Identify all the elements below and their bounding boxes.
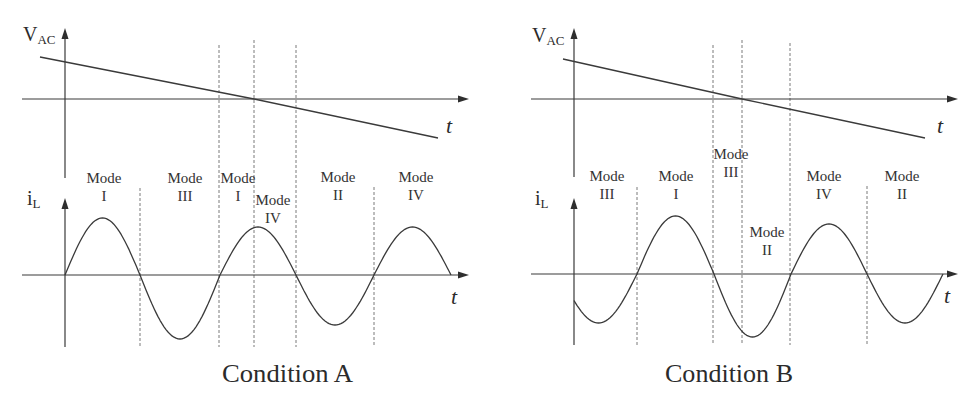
waveform-figure: ModeIModeIIIModeIModeIVModeIIModeIV VAC … xyxy=(0,0,979,403)
arrow-right-icon xyxy=(947,271,958,278)
mode-label-word: Mode xyxy=(221,170,256,186)
mode-label-word: Mode xyxy=(714,146,749,162)
vac-label-main: V xyxy=(532,24,547,46)
vac-axis-label: VAC xyxy=(23,23,56,47)
mode-label-numeral: I xyxy=(674,186,679,202)
condition-a-panel: ModeIModeIIIModeIModeIVModeIIModeIV VAC … xyxy=(22,23,469,387)
arrow-up-icon xyxy=(571,198,578,209)
mode-label-word: Mode xyxy=(256,192,291,208)
vac-axis-label: VAC xyxy=(532,24,565,48)
mode-label-word: Mode xyxy=(807,168,842,184)
mode-label-word: Mode xyxy=(87,170,122,186)
il-label-subscript: L xyxy=(33,196,41,211)
caption-condition-b: Condition B xyxy=(665,360,793,387)
arrow-up-icon xyxy=(62,198,69,209)
condition-a-graphics: ModeIModeIIIModeIModeIVModeIIModeIV xyxy=(22,28,469,347)
arrow-up-icon xyxy=(571,28,578,39)
vac-time-label: t xyxy=(937,113,944,138)
condition-b-panel: ModeIIIModeIModeIIIModeIIModeIVModeII VA… xyxy=(531,24,958,387)
mode-label-word: Mode xyxy=(659,168,694,184)
mode-label-numeral: I xyxy=(236,188,241,204)
mode-label-numeral: IV xyxy=(816,186,832,202)
mode-label-numeral: IV xyxy=(265,210,281,226)
mode-label-word: Mode xyxy=(399,169,434,185)
il-axis-label: iL xyxy=(27,187,41,211)
mode-label-numeral: III xyxy=(600,186,615,202)
mode-label-numeral: II xyxy=(333,187,343,203)
mode-label-numeral: III xyxy=(724,164,739,180)
mode-label-numeral: II xyxy=(897,186,907,202)
vac-label-main: V xyxy=(23,23,38,45)
arrow-right-icon xyxy=(947,96,958,103)
il-time-label: t xyxy=(944,283,951,308)
vac-time-label: t xyxy=(446,113,453,138)
mode-label-word: Mode xyxy=(168,170,203,186)
vac-label-subscript: AC xyxy=(546,33,564,48)
mode-label-word: Mode xyxy=(750,224,785,240)
vac-waveform xyxy=(40,57,438,138)
mode-label-word: Mode xyxy=(885,168,920,184)
mode-label-numeral: III xyxy=(178,188,193,204)
mode-label-numeral: I xyxy=(102,188,107,204)
mode-label-numeral: IV xyxy=(408,187,424,203)
il-time-label: t xyxy=(451,284,458,309)
il-waveform xyxy=(65,218,451,339)
il-axis-label: iL xyxy=(535,187,549,211)
mode-label-word: Mode xyxy=(590,168,625,184)
mode-label-numeral: II xyxy=(762,242,772,258)
mode-label-word: Mode xyxy=(321,169,356,185)
caption-condition-a: Condition A xyxy=(222,360,353,387)
condition-b-graphics: ModeIIIModeIModeIIIModeIIModeIVModeII xyxy=(531,28,958,345)
arrow-up-icon xyxy=(62,28,69,39)
arrow-right-icon xyxy=(458,272,469,279)
figure-canvas: ModeIModeIIIModeIModeIVModeIIModeIV VAC … xyxy=(0,0,979,403)
arrow-right-icon xyxy=(458,96,469,103)
vac-label-subscript: AC xyxy=(37,32,55,47)
il-label-subscript: L xyxy=(541,196,549,211)
